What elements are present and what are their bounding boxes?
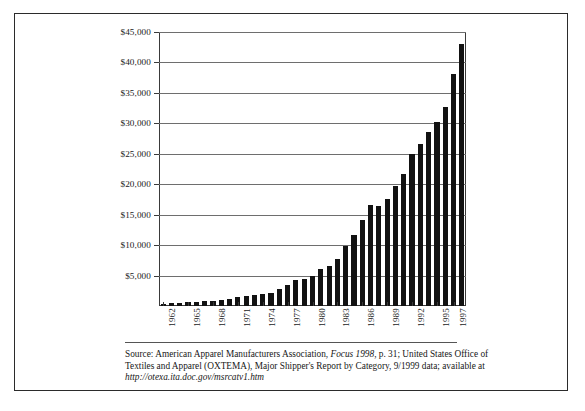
x-axis-label-1986: 1986 xyxy=(366,308,376,327)
bar-1979 xyxy=(302,279,307,306)
x-axis-label-1992: 1992 xyxy=(416,308,426,327)
y-axis-label-45000: $45,000 xyxy=(120,27,151,37)
y-axis-label-30000: $30,000 xyxy=(120,118,151,128)
x-axis-label-1983: 1983 xyxy=(341,308,351,327)
bar-1994 xyxy=(426,132,431,306)
y-axis-label-25000: $25,000 xyxy=(120,149,151,159)
caption-line-1-part-b: , p. 31; United States Office xyxy=(374,349,478,359)
bar-1981 xyxy=(318,269,323,306)
x-axis-label-1989: 1989 xyxy=(391,308,401,327)
bar-1996 xyxy=(443,107,448,306)
bar-1992 xyxy=(409,154,414,306)
y-axis-label-20000: $20,000 xyxy=(120,179,151,189)
x-tick-mark-1997 xyxy=(454,302,455,306)
x-tick-mark-1980 xyxy=(313,302,314,306)
bar-1986 xyxy=(360,220,365,306)
bar-1976 xyxy=(277,289,282,306)
bar-1978 xyxy=(293,280,298,306)
x-tick-mark-1962 xyxy=(163,302,164,306)
chart-plot-area: $45,000$40,000$35,000$30,000$25,000$20,0… xyxy=(159,32,466,306)
x-axis-label-1995: 1995 xyxy=(441,308,451,327)
bar-1983 xyxy=(335,259,340,306)
source-caption: Source: American Apparel Manufacturers A… xyxy=(125,349,497,384)
bar-1987 xyxy=(368,205,373,306)
bar-1975 xyxy=(268,293,273,306)
bar-1990 xyxy=(393,186,398,306)
x-axis-label-1971: 1971 xyxy=(242,308,252,327)
bar-1973 xyxy=(252,295,257,306)
caption-line-3-part-a: available at xyxy=(442,361,485,371)
x-tick-mark-1977 xyxy=(288,302,289,306)
bar-1989 xyxy=(385,199,390,306)
caption-line-1: Source: American Apparel Manufacturers A… xyxy=(125,349,478,359)
bar-1985 xyxy=(351,235,356,306)
x-axis-label-1980: 1980 xyxy=(317,308,327,327)
bar-1970 xyxy=(227,299,232,306)
chart-x-axis-labels: 1962196519681971197419771980198319861989… xyxy=(159,306,466,350)
x-tick-mark-1968 xyxy=(213,302,214,306)
x-axis-label-1977: 1977 xyxy=(292,308,302,327)
x-tick-mark-1995 xyxy=(437,302,438,306)
x-tick-mark-1986 xyxy=(362,302,363,306)
x-tick-mark-1989 xyxy=(387,302,388,306)
bar-1991 xyxy=(401,174,406,306)
y-axis-label-5000: $5,000 xyxy=(125,271,151,281)
bar-1984 xyxy=(343,246,348,306)
caption-url: http://otexa.ita.doc.gov/msrcatv1.htm xyxy=(125,372,264,382)
x-axis-label-1997: 1997 xyxy=(458,308,468,327)
x-tick-mark-1965 xyxy=(188,302,189,306)
bar-1972 xyxy=(244,296,249,306)
bar-1988 xyxy=(376,206,381,306)
y-axis-label-15000: $15,000 xyxy=(120,210,151,220)
caption-line-1-part-a: Source: American Apparel Manufacturers A… xyxy=(125,349,331,359)
x-axis-label-1968: 1968 xyxy=(217,308,227,327)
caption-focus-title: Focus 1998 xyxy=(331,349,375,359)
y-axis-label-10000: $10,000 xyxy=(120,240,151,250)
bar-1993 xyxy=(418,144,423,306)
bar-1997 xyxy=(451,74,456,306)
x-tick-mark-1983 xyxy=(337,302,338,306)
y-axis-label-35000: $35,000 xyxy=(120,88,151,98)
x-axis-label-1965: 1965 xyxy=(192,308,202,327)
x-axis-label-1962: 1962 xyxy=(167,308,177,327)
x-tick-mark-1974 xyxy=(263,302,264,306)
figure-frame: $45,000$40,000$35,000$30,000$25,000$20,0… xyxy=(14,13,568,391)
x-tick-mark-1992 xyxy=(412,302,413,306)
bar-undefined xyxy=(459,44,464,306)
y-axis-label-40000: $40,000 xyxy=(120,57,151,67)
caption-divider xyxy=(125,342,457,343)
bar-1982 xyxy=(327,266,332,306)
x-tick-mark-1971 xyxy=(238,302,239,306)
x-axis-label-1974: 1974 xyxy=(267,308,277,327)
chart-bars xyxy=(159,32,466,306)
bar-1995 xyxy=(434,122,439,306)
